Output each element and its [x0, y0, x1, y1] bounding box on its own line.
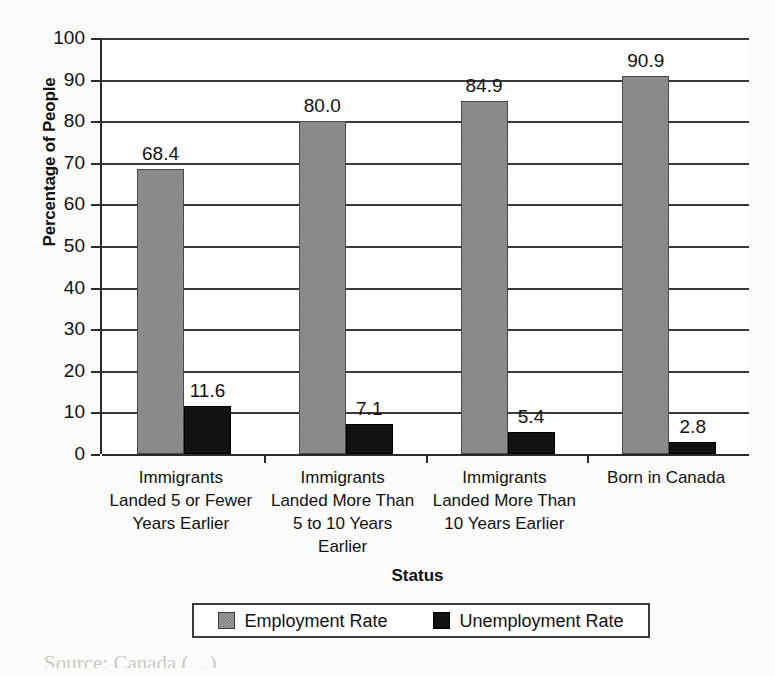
legend-entry-unemployment: Unemployment Rate	[433, 612, 623, 630]
plot-area: 68.411.680.07.184.95.490.92.8	[100, 38, 749, 454]
bar-unemployment-1	[346, 424, 393, 454]
y-tick-mark	[91, 38, 100, 40]
y-tick-label: 10	[0, 402, 85, 421]
y-tick-mark	[91, 246, 100, 248]
y-tick-mark	[91, 163, 100, 165]
y-tick-mark	[91, 204, 100, 206]
y-tick-label: 30	[0, 319, 85, 338]
bar-unemployment-3	[669, 442, 716, 454]
y-tick-mark	[91, 329, 100, 331]
bar-employment-2	[461, 101, 508, 454]
y-tick-label: 20	[0, 361, 85, 380]
y-tick-mark	[91, 454, 100, 456]
category-label-2: Immigrants Landed More Than 10 Years Ear…	[416, 466, 594, 535]
bar-value-label: 84.9	[443, 76, 526, 95]
category-label-0: Immigrants Landed 5 or Fewer Years Earli…	[92, 466, 270, 535]
bar-employment-3	[622, 76, 669, 454]
bar-value-label: 80.0	[281, 96, 364, 115]
y-tick-label: 50	[0, 236, 85, 255]
category-label-3: Born in Canada	[577, 466, 755, 489]
cut-off-source-caption: Source: Canada (....)	[44, 651, 217, 668]
bar-value-label: 5.4	[490, 407, 573, 426]
bar-value-label: 7.1	[328, 399, 411, 418]
legend-label-employment: Employment Rate	[244, 612, 387, 630]
y-tick-label: 70	[0, 153, 85, 172]
category-label-1: Immigrants Landed More Than 5 to 10 Year…	[254, 466, 432, 558]
y-tick-mark	[91, 80, 100, 82]
y-tick-label: 0	[0, 444, 85, 463]
bar-employment-0	[137, 169, 184, 454]
y-tick-mark	[91, 412, 100, 414]
bar-value-label: 11.6	[166, 381, 249, 400]
y-tick-label: 40	[0, 278, 85, 297]
y-tick-label: 80	[0, 111, 85, 130]
y-tick-mark	[91, 288, 100, 290]
bar-value-label: 2.8	[651, 417, 734, 436]
bar-unemployment-2	[508, 432, 555, 454]
y-tick-label: 60	[0, 194, 85, 213]
legend-label-unemployment: Unemployment Rate	[459, 612, 623, 630]
unemployment-swatch-icon	[433, 612, 450, 629]
gridline	[102, 38, 749, 40]
y-tick-label: 90	[0, 70, 85, 89]
x-tick-mark	[426, 454, 428, 463]
y-tick-mark	[91, 121, 100, 123]
bar-value-label: 68.4	[119, 144, 202, 163]
chart-legend: Employment Rate Unemployment Rate	[192, 603, 650, 638]
x-tick-mark	[264, 454, 266, 463]
bar-unemployment-0	[184, 406, 231, 454]
chart-page: Percentage of People 0102030405060708090…	[0, 0, 775, 676]
legend-entry-employment: Employment Rate	[218, 612, 387, 630]
y-tick-mark	[91, 371, 100, 373]
x-axis-title: Status	[0, 566, 775, 586]
y-tick-label: 100	[0, 28, 85, 47]
x-tick-mark	[587, 454, 589, 463]
employment-swatch-icon	[218, 612, 235, 629]
bar-value-label: 90.9	[604, 51, 687, 70]
